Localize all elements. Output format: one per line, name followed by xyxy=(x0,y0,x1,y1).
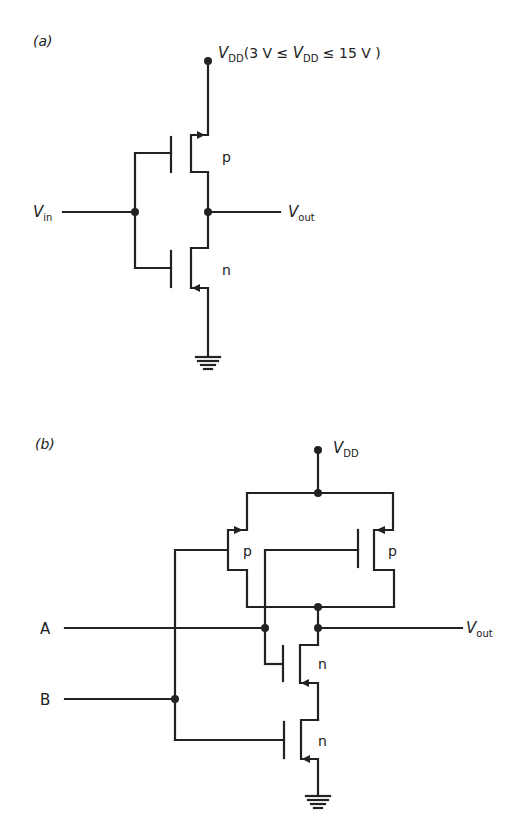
pmos-right-label: p xyxy=(388,543,397,559)
vout-label: Vout xyxy=(288,203,315,223)
input-a-junction-dot xyxy=(261,624,269,632)
panel-b-nand: (b) VDD p p A Vo xyxy=(35,436,493,808)
nmos-top-label: n xyxy=(318,656,327,672)
pmos-left-arrow-icon xyxy=(234,526,243,534)
nmos-bottom-arrow-icon xyxy=(302,755,310,763)
nmos-label: n xyxy=(222,262,231,278)
pmos-left-label: p xyxy=(243,543,252,559)
pmos-left-transistor: p xyxy=(175,493,252,740)
nmos-transistor: n xyxy=(171,212,231,356)
nmos-arrow-icon xyxy=(192,284,200,292)
pmos-transistor: p xyxy=(135,61,231,268)
nmos-top-transistor: n xyxy=(265,645,327,720)
vdd-label: VDD xyxy=(333,439,359,459)
pmos-right-transistor: p xyxy=(265,493,397,664)
vdd-label: VDD(3 V ≤ VDD ≤ 15 V ) xyxy=(218,44,381,64)
pmos-right-arrow-icon xyxy=(376,526,385,534)
nmos-bottom-label: n xyxy=(318,733,327,749)
output-junction-dot xyxy=(314,624,322,632)
nmos-bottom-transistor: n xyxy=(175,720,327,796)
pmos-arrow-icon xyxy=(197,131,205,139)
input-a-label: A xyxy=(40,620,51,638)
panel-b-label: (b) xyxy=(35,436,55,452)
pmos-label: p xyxy=(222,149,231,165)
input-b-label: B xyxy=(40,691,50,709)
ground-icon xyxy=(306,796,330,808)
input-junction-dot xyxy=(131,208,139,216)
vdd-rail-junction-dot xyxy=(314,489,322,497)
vout-label: Vout xyxy=(466,619,493,639)
vin-label: Vin xyxy=(33,203,52,223)
input-b-junction-dot xyxy=(171,695,179,703)
nmos-top-arrow-icon xyxy=(301,679,309,687)
ground-icon xyxy=(196,357,220,369)
panel-a-inverter: (a) VDD(3 V ≤ VDD ≤ 15 V ) p Vin Vout n xyxy=(33,33,381,369)
cmos-circuit-diagram: (a) VDD(3 V ≤ VDD ≤ 15 V ) p Vin Vout n xyxy=(0,0,519,832)
panel-a-label: (a) xyxy=(33,33,53,49)
